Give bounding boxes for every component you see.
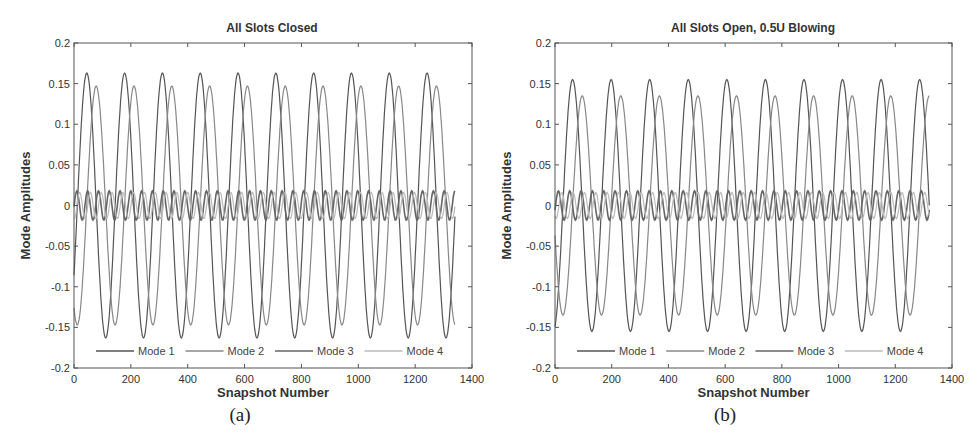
- x-tick-label: 200: [603, 373, 621, 385]
- x-tick-label: 1400: [460, 373, 484, 385]
- x-axis-label: Snapshot Number: [217, 385, 329, 400]
- y-tick-label: -0.2: [532, 362, 551, 374]
- legend-label: Mode 4: [887, 345, 924, 357]
- y-tick-label: 0.15: [530, 78, 551, 90]
- y-tick-label: 0: [64, 200, 70, 212]
- y-axis-label: Mode Amplitudes: [499, 152, 514, 260]
- panel-caption: (a): [229, 404, 250, 426]
- legend: Mode 1Mode 2Mode 3Mode 4: [96, 345, 443, 357]
- x-tick-label: 800: [773, 373, 791, 385]
- y-tick-label: -0.05: [526, 240, 551, 252]
- y-tick-label: 0.1: [55, 118, 70, 130]
- legend-label: Mode 3: [798, 345, 835, 357]
- x-tick-label: 400: [179, 373, 197, 385]
- chart-panel-b: All Slots Open, 0.5U Blowing020040060080…: [499, 21, 964, 426]
- chart-title: All Slots Open, 0.5U Blowing: [671, 21, 835, 35]
- legend-label: Mode 3: [317, 345, 354, 357]
- y-tick-label: -0.1: [532, 281, 551, 293]
- chart-panel-a: All Slots Closed020040060080010001200140…: [18, 21, 484, 426]
- y-tick-label: -0.15: [526, 321, 551, 333]
- y-tick-label: 0.05: [49, 159, 70, 171]
- legend-label: Mode 1: [619, 345, 656, 357]
- y-tick-label: 0.15: [49, 78, 70, 90]
- y-tick-label: 0: [545, 200, 551, 212]
- series-lines: [74, 73, 455, 338]
- x-tick-label: 1200: [883, 373, 907, 385]
- y-tick-label: -0.2: [51, 362, 70, 374]
- y-tick-label: 0.05: [530, 159, 551, 171]
- x-tick-label: 1200: [403, 373, 427, 385]
- y-tick-label: -0.15: [45, 321, 70, 333]
- y-tick-label: -0.1: [51, 281, 70, 293]
- chart-title: All Slots Closed: [226, 21, 317, 35]
- legend: Mode 1Mode 2Mode 3Mode 4: [577, 345, 923, 357]
- y-tick-label: 0.2: [55, 37, 70, 49]
- x-tick-label: 1400: [940, 373, 964, 385]
- x-tick-label: 0: [552, 373, 558, 385]
- x-tick-label: 800: [292, 373, 310, 385]
- x-tick-label: 600: [716, 373, 734, 385]
- x-tick-label: 1000: [826, 373, 850, 385]
- y-tick-label: -0.05: [45, 240, 70, 252]
- x-axis-label: Snapshot Number: [698, 385, 810, 400]
- y-tick-label: 0.1: [536, 118, 551, 130]
- x-tick-label: 600: [235, 373, 253, 385]
- legend-label: Mode 4: [407, 345, 444, 357]
- x-tick-label: 400: [659, 373, 677, 385]
- series-lines: [555, 80, 929, 332]
- y-tick-label: 0.2: [536, 37, 551, 49]
- legend-label: Mode 2: [228, 345, 265, 357]
- panel-caption: (b): [714, 404, 736, 426]
- figure: All Slots Closed020040060080010001200140…: [0, 0, 979, 448]
- legend-label: Mode 2: [708, 345, 745, 357]
- y-axis-label: Mode Amplitudes: [18, 152, 33, 260]
- legend-label: Mode 1: [138, 345, 175, 357]
- x-tick-label: 0: [71, 373, 77, 385]
- x-tick-label: 1000: [346, 373, 370, 385]
- x-tick-label: 200: [122, 373, 140, 385]
